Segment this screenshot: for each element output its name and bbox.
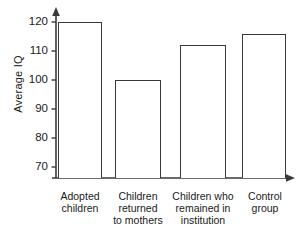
x-label-line: Adopted [52,190,108,202]
y-axis-arrow-icon [52,7,60,16]
x-label-line: Control [239,190,291,202]
x-category-label-control-group: Control group [239,190,291,214]
x-label-line: group [239,202,291,214]
x-label-line: institution [168,214,238,226]
bar-children-remained-in-institution [180,45,226,178]
y-tick-label: 70 [20,161,48,172]
y-tick-label: 120 [20,16,48,27]
x-label-line: remained in [168,202,238,214]
y-tick-label: 100 [20,74,48,85]
x-axis-arrow-icon [286,174,295,182]
bar-adopted-children [58,22,102,178]
x-label-line: to mothers [108,214,168,226]
x-category-label-adopted-children: Adopted children [52,190,108,214]
x-category-label-children-remained: Children who remained in institution [168,190,238,227]
bar-control-group [242,34,286,178]
x-category-label-children-returned: Children returned to mothers [108,190,168,227]
x-label-line: Children who [168,190,238,202]
x-label-line: children [52,202,108,214]
bar-children-returned-to-mothers [115,80,161,178]
y-axis-tick-labels: 120 110 100 90 80 70 [18,0,48,245]
y-tick-label: 90 [20,103,48,114]
y-tick-label: 110 [20,45,48,56]
x-label-line: Children [108,190,168,202]
x-label-line: returned [108,202,168,214]
bar-chart: Average IQ 120 110 100 90 80 70 Adopted … [0,0,301,245]
y-tick-label: 80 [20,132,48,143]
